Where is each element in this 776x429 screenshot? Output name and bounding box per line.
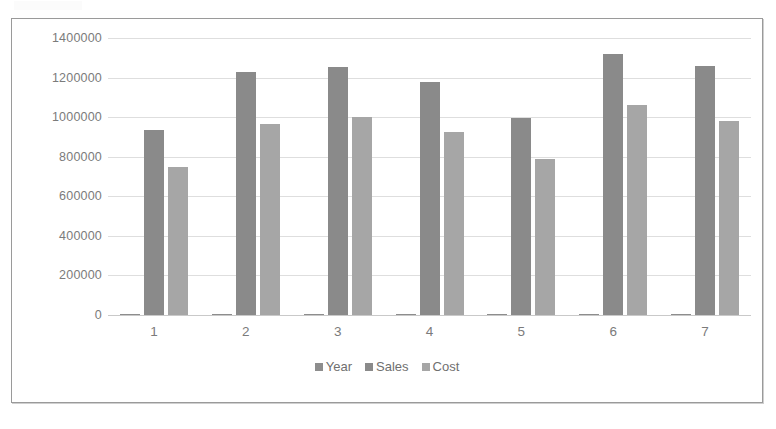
bar-group (292, 38, 384, 315)
bar-year (304, 314, 324, 315)
bar-group (475, 38, 567, 315)
plot-wrap: 1400000120000010000008000006000004000002… (12, 19, 762, 402)
bar-sales (420, 82, 440, 315)
bar-sales (236, 72, 256, 315)
plot-area (108, 38, 751, 315)
bar-year (212, 314, 232, 315)
bar-cost (260, 124, 280, 315)
bars-layer (108, 38, 751, 315)
x-axis-tick-label: 2 (200, 319, 292, 345)
x-axis-tick-label: 6 (567, 319, 659, 345)
bar-sales (695, 66, 715, 315)
y-axis-tick-label: 1400000 (18, 31, 102, 45)
legend-label: Cost (433, 359, 460, 374)
legend-label: Year (326, 359, 352, 374)
y-axis-tick-label: 200000 (18, 268, 102, 282)
bar-sales (603, 54, 623, 315)
x-axis-tick-label: 1 (108, 319, 200, 345)
bar-year (671, 314, 691, 315)
chart-frame: 1400000120000010000008000006000004000002… (11, 18, 763, 403)
bar-cost (535, 159, 555, 315)
y-axis-tick-label: 0 (18, 308, 102, 322)
bar-group (384, 38, 476, 315)
chart-legend: YearSalesCost (12, 359, 762, 374)
bar-cost (444, 132, 464, 315)
bar-cost (168, 167, 188, 315)
bar-group (108, 38, 200, 315)
y-axis-tick-label: 1000000 (18, 110, 102, 124)
bar-sales (144, 130, 164, 315)
y-axis-tick-label: 600000 (18, 189, 102, 203)
bar-year (120, 314, 140, 315)
legend-swatch-icon (315, 363, 323, 371)
axis-baseline (108, 315, 751, 316)
x-axis-tick-label: 4 (384, 319, 476, 345)
x-axis: 1234567 (108, 319, 751, 345)
legend-item-cost[interactable]: Cost (422, 359, 460, 374)
bar-year (396, 314, 416, 315)
bar-group (200, 38, 292, 315)
bar-year (579, 314, 599, 315)
bar-year (487, 314, 507, 315)
legend-item-year[interactable]: Year (315, 359, 352, 374)
bar-group (567, 38, 659, 315)
bar-sales (328, 67, 348, 315)
legend-item-sales[interactable]: Sales (365, 359, 409, 374)
x-axis-tick-label: 5 (475, 319, 567, 345)
y-axis-tick-label: 400000 (18, 229, 102, 243)
x-axis-tick-label: 3 (292, 319, 384, 345)
y-axis-tick-label: 800000 (18, 150, 102, 164)
bar-cost (627, 105, 647, 315)
legend-label: Sales (376, 359, 409, 374)
bar-cost (352, 117, 372, 315)
bar-cost (719, 121, 739, 315)
bar-group (659, 38, 751, 315)
legend-swatch-icon (365, 363, 373, 371)
y-axis: 1400000120000010000008000006000004000002… (18, 30, 102, 320)
legend-swatch-icon (422, 363, 430, 371)
x-axis-tick-label: 7 (659, 319, 751, 345)
bar-sales (511, 118, 531, 315)
y-axis-tick-label: 1200000 (18, 71, 102, 85)
scan-artifact (14, 1, 82, 10)
